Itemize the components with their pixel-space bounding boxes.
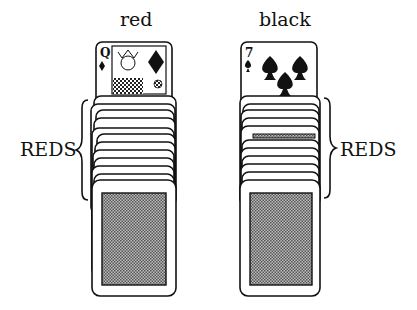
- left-brace-icon: [76, 100, 88, 200]
- svg-text:7: 7: [245, 46, 253, 60]
- svg-text:Q: Q: [100, 46, 110, 60]
- black-pile: 7: [240, 42, 320, 296]
- right-brace-icon: [324, 98, 336, 198]
- card-piles-diagram: Q: [0, 0, 417, 310]
- red-pile-bottom-card-back: [92, 180, 176, 296]
- red-pile: Q: [91, 42, 176, 296]
- black-pile-bottom-card-back: [240, 180, 320, 296]
